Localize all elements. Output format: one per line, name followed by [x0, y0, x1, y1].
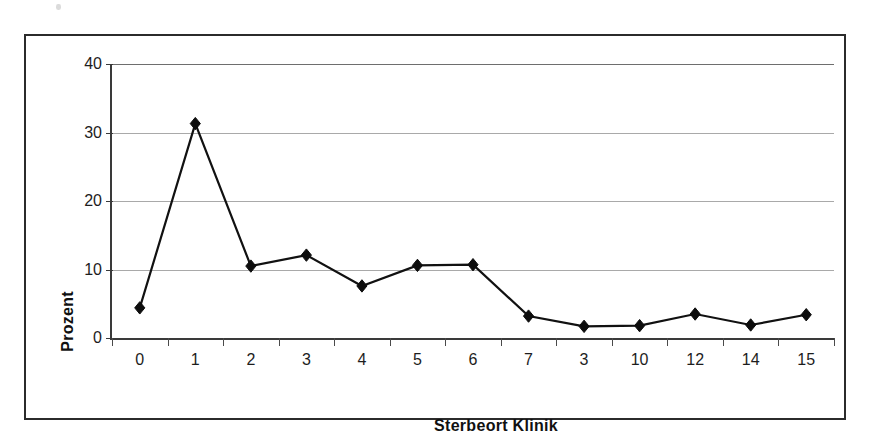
y-tick-30: [106, 133, 113, 134]
x-tick: [223, 338, 224, 346]
data-point-marker: [357, 280, 367, 292]
x-axis-tick-label: 7: [524, 352, 533, 368]
x-tick: [168, 338, 169, 346]
x-axis-tick-label: 0: [135, 352, 144, 368]
scan-artifact-speck: [56, 4, 61, 10]
x-tick: [723, 338, 724, 346]
y-axis-tick-label: 10: [84, 262, 102, 278]
data-point-marker: [301, 249, 311, 261]
plot-area: 010203040 01234567310121415: [110, 64, 834, 340]
data-point-marker: [801, 309, 811, 321]
x-tick: [778, 338, 779, 346]
gridline-20: [112, 201, 834, 202]
x-tick: [501, 338, 502, 346]
chart-page: Prozent Sterbeort Klinik 010203040 01234…: [0, 0, 869, 443]
x-axis-tick-label: 14: [742, 352, 760, 368]
data-point-marker: [746, 319, 756, 331]
y-axis-tick-label: 0: [93, 330, 102, 346]
x-axis-tick-label: 3: [302, 352, 311, 368]
x-axis-tick-label: 5: [413, 352, 422, 368]
y-axis-tick-label: 40: [84, 56, 102, 72]
gridline-30: [112, 133, 834, 134]
x-tick: [279, 338, 280, 346]
data-point-marker: [690, 308, 700, 320]
figure-frame: Prozent Sterbeort Klinik 010203040 01234…: [24, 34, 846, 420]
data-point-marker: [135, 302, 145, 314]
x-tick: [445, 338, 446, 346]
x-tick: [112, 338, 113, 346]
gridline-40: [112, 64, 834, 65]
x-tick: [612, 338, 613, 346]
x-axis-tick-label: 2: [246, 352, 255, 368]
x-axis-tick-label: 3: [580, 352, 589, 368]
x-tick: [834, 338, 835, 346]
x-axis-tick-label: 10: [631, 352, 649, 368]
x-axis-tick-label: 4: [357, 352, 366, 368]
data-point-marker: [635, 319, 645, 331]
y-tick-20: [106, 201, 113, 202]
y-tick-40: [106, 64, 113, 65]
y-axis-tick-label: 20: [84, 193, 102, 209]
x-axis-tick-label: 6: [469, 352, 478, 368]
x-tick: [390, 338, 391, 346]
x-tick: [334, 338, 335, 346]
gridline-10: [112, 270, 834, 271]
x-axis-title: Sterbeort Klinik: [134, 417, 858, 435]
data-point-marker: [579, 320, 589, 332]
x-axis-tick-label: 15: [797, 352, 815, 368]
x-tick: [556, 338, 557, 346]
y-axis-tick-label: 30: [84, 125, 102, 141]
y-axis-title: Prozent: [60, 291, 84, 352]
series-line: [140, 124, 806, 327]
x-axis-tick-label: 12: [686, 352, 704, 368]
x-tick: [667, 338, 668, 346]
data-point-marker: [523, 310, 533, 322]
y-tick-10: [106, 270, 113, 271]
data-point-marker: [190, 117, 200, 129]
x-axis-tick-label: 1: [191, 352, 200, 368]
